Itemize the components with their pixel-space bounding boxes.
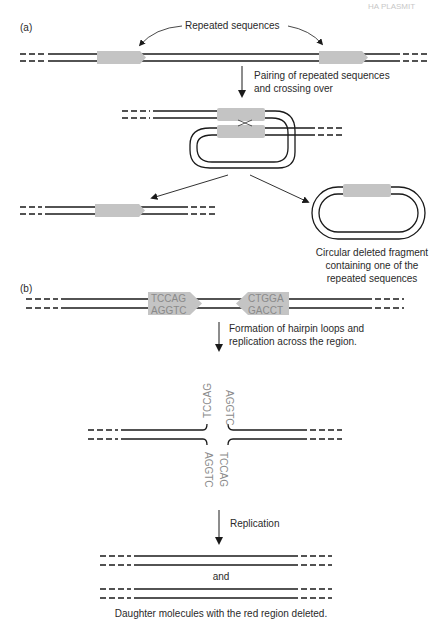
circle-caption-line3: repeated sequences [327, 273, 418, 284]
arrow-to-circular-product [250, 175, 308, 202]
remaining-repeat-block [95, 204, 145, 217]
circle-caption-line2: containing one of the [326, 260, 419, 271]
final-caption: Daughter molecules with the red region d… [115, 608, 327, 619]
linear-duplex-b [26, 299, 404, 308]
pairing-step-line1: Pairing of repeated sequences [254, 70, 390, 81]
repeated-sequences-label: Repeated sequences [185, 20, 280, 31]
hairpin-step-line2: replication across the region. [229, 336, 357, 347]
panel-b: (b) TCCAG AGGTC CTGGA GACCT Formation of… [20, 283, 404, 619]
replication-label: Replication [230, 518, 279, 529]
hairpin-up-left-seq: TCCAG [202, 383, 213, 418]
hairpin-step-line1: Formation of hairpin loops and [229, 323, 364, 334]
daughter-molecule-1 [100, 556, 332, 565]
right-seq-top: CTGGA [248, 293, 284, 304]
and-label: and [213, 571, 230, 582]
left-seq-top: TCCAG [151, 293, 186, 304]
arrow-to-linear-product [152, 175, 228, 198]
hairpin-up-right-seq: AGGTC [224, 390, 235, 426]
panel-b-label: (b) [20, 283, 32, 294]
cruciform-structure [88, 424, 342, 445]
curved-arrow-right [288, 26, 322, 44]
circular-repeat-block [343, 184, 391, 197]
paired-repeat-bottom [217, 125, 265, 138]
page-header-text: HA PLASMIT [368, 2, 415, 11]
right-seq-bottom: GACCT [248, 305, 283, 316]
deletion-mechanism-diagram: HA PLASMIT (a) Repeated sequences Pairin… [0, 0, 444, 641]
pairing-step-line2: and crossing over [254, 83, 334, 94]
paired-repeat-top [217, 108, 265, 121]
hairpin-down-right-seq: TCCAG [218, 452, 229, 487]
repeat-block-right [319, 51, 368, 64]
hairpin-down-left-seq: AGGTC [203, 452, 214, 488]
daughter-molecule-2 [100, 589, 332, 598]
panel-a: (a) Repeated sequences Pairing of repeat… [20, 20, 428, 284]
repeat-block-left [97, 51, 146, 64]
curved-arrow-left [140, 26, 182, 45]
circle-caption-line1: Circular deleted fragment [316, 247, 428, 258]
left-seq-bottom: AGGTC [151, 305, 187, 316]
panel-a-label: (a) [20, 22, 32, 33]
